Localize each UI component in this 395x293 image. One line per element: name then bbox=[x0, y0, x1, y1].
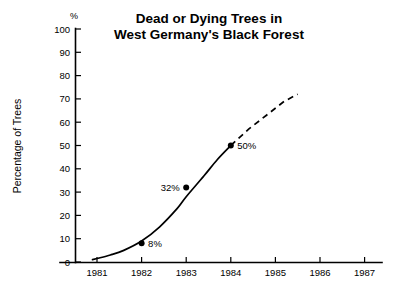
y-tick-label-60: 60 bbox=[59, 117, 70, 128]
data-point-marker bbox=[139, 240, 145, 246]
x-tick-label-1983: 1983 bbox=[176, 267, 197, 278]
x-tick-label-1987: 1987 bbox=[354, 267, 375, 278]
y-axis-title: Percentage of Trees bbox=[11, 99, 23, 194]
y-tick-label-30: 30 bbox=[59, 187, 70, 198]
x-tick-label-1981: 1981 bbox=[86, 267, 107, 278]
x-tick-label-1986: 1986 bbox=[309, 267, 330, 278]
y-axis-unit-symbol: % bbox=[70, 11, 78, 21]
x-axis-tick-labels: 1981 1982 1983 1984 1985 1986 1987 bbox=[86, 267, 375, 278]
series-line-projected bbox=[231, 94, 298, 145]
y-tick-label-0: 0 bbox=[65, 257, 70, 268]
y-tick-label-20: 20 bbox=[59, 210, 70, 221]
line-chart: Dead or Dying Trees in West Germany's Bl… bbox=[0, 0, 395, 293]
chart-title-line-2: West Germany's Black Forest bbox=[114, 27, 304, 42]
data-point-marker bbox=[228, 143, 234, 149]
y-tick-label-40: 40 bbox=[59, 163, 70, 174]
annotation-layer: 8%32%50% bbox=[139, 140, 257, 249]
y-axis-ticks bbox=[76, 29, 82, 262]
data-point-marker bbox=[183, 184, 189, 190]
x-tick-label-1985: 1985 bbox=[265, 267, 286, 278]
y-axis-tick-labels: 100 90 80 70 60 50 40 30 20 10 0 bbox=[54, 24, 70, 268]
x-axis-ticks bbox=[97, 257, 365, 263]
y-tick-label-50: 50 bbox=[59, 140, 70, 151]
data-point-label: 32% bbox=[161, 182, 181, 193]
chart-title-line-1: Dead or Dying Trees in bbox=[136, 11, 282, 26]
y-tick-label-100: 100 bbox=[54, 24, 70, 35]
data-point-label: 8% bbox=[148, 238, 162, 249]
y-tick-label-10: 10 bbox=[59, 233, 70, 244]
chart-page: Dead or Dying Trees in West Germany's Bl… bbox=[0, 0, 395, 293]
x-tick-label-1982: 1982 bbox=[131, 267, 152, 278]
x-tick-label-1984: 1984 bbox=[220, 267, 241, 278]
data-point-label: 50% bbox=[237, 140, 257, 151]
y-tick-label-70: 70 bbox=[59, 93, 70, 104]
y-tick-label-80: 80 bbox=[59, 70, 70, 81]
y-tick-label-90: 90 bbox=[59, 47, 70, 58]
